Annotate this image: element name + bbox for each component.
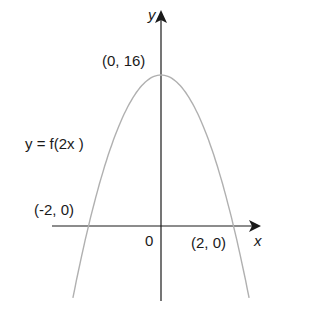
x-axis-label: x <box>254 233 262 248</box>
curve-label: y = f(2x ) <box>25 136 84 151</box>
right-root-label: (2, 0) <box>191 235 226 250</box>
curve-label-text: y = f(2x ) <box>25 135 84 152</box>
y-axis-label: y <box>148 7 156 22</box>
left-root-label: (-2, 0) <box>34 202 74 217</box>
vertex-label: (0, 16) <box>102 53 145 68</box>
origin-label: 0 <box>145 233 153 248</box>
graph-canvas <box>0 0 330 316</box>
